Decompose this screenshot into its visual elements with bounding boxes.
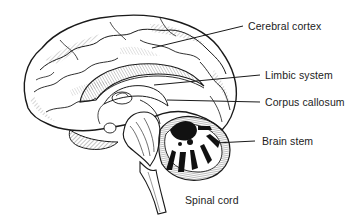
label-brain-stem: Brain stem [262, 135, 313, 147]
spinal-cord-structure [140, 162, 166, 214]
label-corpus-callosum: Corpus callosum [265, 96, 345, 108]
label-cerebral-cortex: Cerebral cortex [248, 20, 321, 32]
brain-illustration [0, 0, 357, 218]
brain-stem-structure [123, 112, 160, 166]
label-limbic-system: Limbic system [265, 69, 333, 81]
brain-diagram: Cerebral cortex Limbic system Corpus cal… [0, 0, 357, 218]
label-spinal-cord: Spinal cord [185, 194, 239, 206]
